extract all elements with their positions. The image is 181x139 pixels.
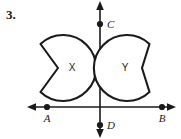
point-c-label: C [107, 18, 115, 30]
x-axis-right-arrow-icon [167, 103, 176, 111]
geometry-diagram: X Y A B C D [0, 0, 181, 139]
point-d-label: D [106, 119, 115, 131]
x-axis-left-arrow-icon [27, 103, 36, 111]
point-c-dot [97, 21, 103, 27]
region-y-group: Y [94, 35, 150, 101]
region-x-group: X [41, 35, 97, 101]
y-axis-down-arrow-icon [96, 129, 104, 138]
point-b-label: B [159, 112, 166, 124]
y-axis-up-arrow-icon [96, 1, 104, 10]
point-a-dot [44, 104, 50, 110]
point-a-label: A [43, 112, 51, 124]
figure-container: 3. X Y [0, 0, 181, 139]
region-x-label: X [69, 62, 76, 73]
point-d-dot [97, 122, 103, 128]
region-y-label: Y [122, 62, 129, 73]
point-b-dot [159, 104, 165, 110]
